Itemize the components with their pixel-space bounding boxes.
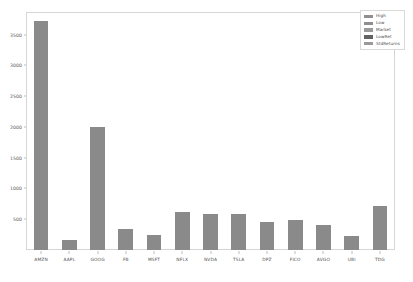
chart-legend: HighLowMarketLowRetStdReturns	[360, 10, 405, 50]
bar-chart: 500100015002000250030003500 AMZNAAPLGOOG…	[0, 0, 413, 282]
bar	[118, 229, 133, 250]
x-tick-label: GOOG	[90, 257, 104, 262]
y-tick-mark	[24, 34, 27, 35]
x-axis: AMZNAAPLGOOGFBMSFTNFLXNVDATSLADPZFICOAVG…	[27, 251, 394, 269]
legend-swatch-icon	[364, 22, 373, 25]
legend-item: High	[364, 14, 400, 20]
y-tick-mark	[24, 219, 27, 220]
bar-slot	[118, 13, 133, 250]
x-tick-label: FB	[123, 257, 129, 262]
y-tick-label: 3500	[10, 32, 22, 37]
x-tick-mark	[323, 251, 324, 254]
bar	[147, 235, 162, 250]
bar-slot	[62, 13, 77, 250]
x-tick-label: NFLX	[176, 257, 188, 262]
legend-swatch-icon	[364, 42, 373, 45]
y-tick-label: 2000	[10, 124, 22, 129]
legend-label: Market	[376, 28, 391, 32]
bar	[260, 222, 275, 250]
x-tick-mark	[41, 251, 42, 254]
legend-label: Low	[376, 21, 385, 25]
bar	[90, 127, 105, 250]
y-tick-mark	[24, 188, 27, 189]
y-tick-mark	[24, 96, 27, 97]
x-tick-mark	[97, 251, 98, 254]
x-tick-mark	[69, 251, 70, 254]
legend-label: LowRet	[376, 35, 392, 39]
bar	[231, 214, 246, 250]
legend-item: Market	[364, 27, 400, 33]
bar-slot	[260, 13, 275, 250]
legend-label: High	[376, 14, 386, 18]
bar	[62, 240, 77, 250]
y-tick-mark	[24, 157, 27, 158]
x-tick-mark	[351, 251, 352, 254]
bar-slot	[344, 13, 359, 250]
y-axis: 500100015002000250030003500	[0, 12, 26, 250]
bar-slot	[34, 13, 49, 250]
y-tick-label: 1500	[10, 155, 22, 160]
x-tick-label: MSFT	[148, 257, 160, 262]
x-tick-mark	[379, 251, 380, 254]
legend-item: Low	[364, 20, 400, 26]
legend-item: StdReturns	[364, 41, 400, 47]
x-tick-mark	[266, 251, 267, 254]
bar	[175, 212, 190, 250]
y-tick-label: 1000	[10, 186, 22, 191]
x-tick-mark	[182, 251, 183, 254]
x-tick-mark	[295, 251, 296, 254]
x-tick-mark	[210, 251, 211, 254]
bar-slot	[203, 13, 218, 250]
bar	[344, 236, 359, 250]
legend-swatch-icon	[364, 35, 373, 38]
y-tick-mark	[24, 65, 27, 66]
bar	[373, 206, 388, 250]
bars-container	[27, 13, 394, 250]
x-tick-mark	[238, 251, 239, 254]
bar-slot	[147, 13, 162, 250]
x-tick-label: AMZN	[34, 257, 48, 262]
x-tick-label: AAPL	[63, 257, 75, 262]
x-tick-label: FICO	[290, 257, 301, 262]
x-tick-label: TSLA	[233, 257, 245, 262]
legend-swatch-icon	[364, 28, 373, 31]
bar	[288, 220, 303, 250]
y-tick-mark	[24, 126, 27, 127]
x-tick-label: TDG	[375, 257, 385, 262]
bar-slot	[231, 13, 246, 250]
x-tick-label: DPZ	[262, 257, 272, 262]
legend-item: LowRet	[364, 34, 400, 40]
bar-slot	[175, 13, 190, 250]
x-tick-label: AVGO	[317, 257, 330, 262]
x-tick-mark	[125, 251, 126, 254]
bar	[316, 225, 331, 250]
y-tick-label: 500	[13, 217, 22, 222]
bar-slot	[288, 13, 303, 250]
y-tick-label: 2500	[10, 94, 22, 99]
x-tick-label: NVDA	[204, 257, 217, 262]
x-tick-label: UBI	[348, 257, 356, 262]
legend-label: StdReturns	[376, 42, 400, 46]
legend-swatch-icon	[364, 15, 373, 18]
bar	[203, 214, 218, 250]
x-tick-mark	[154, 251, 155, 254]
bar-slot	[90, 13, 105, 250]
bar	[34, 21, 49, 250]
bar-slot	[316, 13, 331, 250]
y-tick-label: 3000	[10, 63, 22, 68]
